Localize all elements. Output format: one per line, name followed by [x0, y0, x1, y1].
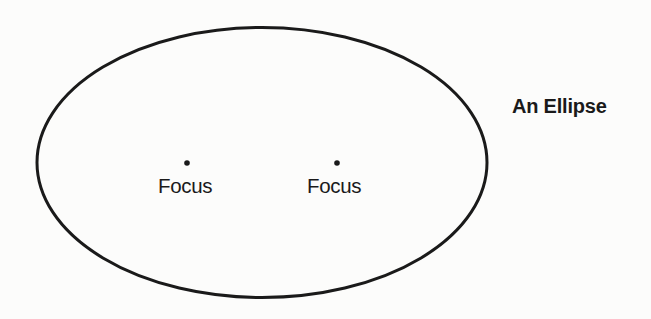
ellipse-figure [0, 0, 651, 319]
ellipse-outline [37, 28, 487, 298]
focus-label-right: Focus [307, 176, 361, 197]
focus-point-right [334, 160, 340, 166]
ellipse-diagram: Focus Focus An Ellipse [0, 0, 651, 319]
focus-point-left [184, 160, 190, 166]
diagram-title: An Ellipse [512, 96, 607, 116]
focus-label-left: Focus [158, 176, 212, 197]
